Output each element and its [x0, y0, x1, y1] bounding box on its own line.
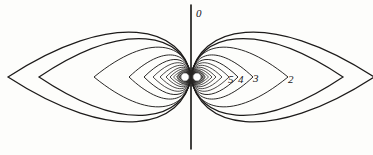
contour-label-3: 3	[253, 73, 259, 84]
contour-label-4: 4	[238, 74, 244, 85]
dipole-figure: 0 5 4 3 2	[0, 0, 373, 155]
contour-label-2: 2	[288, 74, 294, 85]
contour-lobe-1-left	[39, 39, 191, 116]
contour-lobe-1-right	[191, 39, 343, 116]
dipole-field-diagram	[0, 0, 373, 155]
pole-marker-2	[193, 73, 201, 81]
pole-marker-1	[181, 73, 189, 81]
contour-label-5: 5	[228, 74, 234, 85]
contour-label-0: 0	[196, 8, 202, 19]
